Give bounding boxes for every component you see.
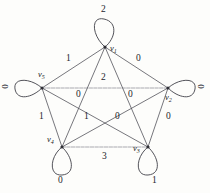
loop-v2 <box>168 80 195 97</box>
edge-weight-v1-v2: 0 <box>136 54 141 64</box>
graph-drawing <box>0 0 210 193</box>
edge-v1-v5 <box>42 47 105 88</box>
loop-weight-v4: 0 <box>58 176 63 186</box>
edge-weight-v4-v3: 3 <box>102 152 107 162</box>
loop-weight-v3: 1 <box>152 176 157 186</box>
node-dot-group <box>40 45 169 148</box>
node-label-v4: v4 <box>47 135 54 144</box>
node-dot-v4[interactable] <box>60 145 63 148</box>
loop-v4 <box>52 147 71 175</box>
edge-v1-v3 <box>105 47 148 147</box>
loop-weight-v1: 2 <box>101 5 106 15</box>
node-label-v3: v3 <box>133 144 140 153</box>
edge-weight-v5-v4: 1 <box>39 112 44 122</box>
loop-v3 <box>138 147 157 175</box>
node-label-v1: v1 <box>110 44 117 53</box>
edge-weight-v1-v5: 1 <box>66 54 71 64</box>
figure-canvas: v1 v5 v2 v4 v3 1 0 2 0 0 1 0 1 0 3 2 0 0… <box>0 0 210 193</box>
node-dot-v3[interactable] <box>146 145 149 148</box>
edge-group <box>42 47 168 147</box>
node-dot-v1[interactable] <box>103 45 106 48</box>
edge-weight-v1-v3: 0 <box>128 90 133 100</box>
edge-weight-v2-v3: 0 <box>166 112 171 122</box>
loop-weight-v5: 0 <box>1 84 10 89</box>
node-dot-v2[interactable] <box>166 86 169 89</box>
node-dot-v5[interactable] <box>40 86 43 89</box>
edge-weight-v5-v3: 1 <box>84 112 89 122</box>
loop-weight-v2: 0 <box>197 84 206 89</box>
edge-weight-v1-v4: 0 <box>76 90 81 100</box>
edge-weight-v5-v2: 2 <box>101 73 106 83</box>
node-label-v2: v2 <box>165 93 172 102</box>
loop-v5 <box>15 80 42 97</box>
edge-weight-v2-v4: 0 <box>115 112 120 122</box>
node-label-v5: v5 <box>38 70 45 79</box>
